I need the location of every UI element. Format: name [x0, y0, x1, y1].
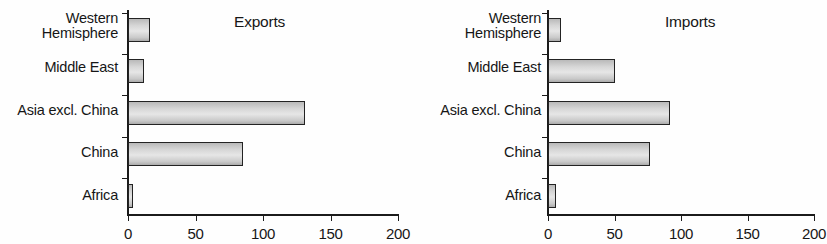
x-axis-tick-label: 50 — [187, 225, 203, 242]
bar — [548, 18, 561, 42]
plot-area-imports: 0 50 100 150 200 — [548, 10, 814, 215]
x-axis-tick — [398, 215, 399, 221]
x-axis-tick-label: 0 — [124, 225, 132, 242]
category-label: Africa — [0, 188, 118, 203]
x-axis-tick-label: 50 — [606, 225, 622, 242]
bar-chart-figure: Western Hemisphere Middle East Asia excl… — [0, 0, 827, 244]
bar — [548, 184, 556, 208]
x-axis-tick-label: 100 — [669, 225, 693, 242]
y-axis-tick — [122, 54, 128, 55]
x-axis-tick-label: 200 — [386, 225, 410, 242]
y-axis-tick — [542, 137, 548, 138]
category-label: Western Hemisphere — [0, 11, 118, 41]
panel-imports: Western Hemisphere Middle East Asia excl… — [413, 0, 827, 244]
category-label: Middle East — [0, 60, 118, 75]
bar — [548, 59, 615, 83]
bar — [548, 142, 650, 166]
y-axis-tick — [122, 95, 128, 96]
category-axis-labels-exports: Western Hemisphere Middle East Asia excl… — [0, 0, 124, 244]
x-axis-tick — [263, 215, 264, 221]
bar — [128, 142, 243, 166]
x-axis-tick — [615, 215, 616, 221]
bar — [128, 101, 305, 125]
y-axis-tick — [542, 95, 548, 96]
y-axis-tick — [542, 13, 548, 14]
y-axis-tick — [122, 137, 128, 138]
x-axis-tick — [548, 215, 549, 221]
bar — [548, 101, 670, 125]
x-axis-tick-label: 100 — [251, 225, 275, 242]
plot-area-exports: 0 50 100 150 200 — [128, 10, 398, 215]
x-axis-tick-label: 0 — [544, 225, 552, 242]
y-axis-tick — [122, 178, 128, 179]
y-axis-tick — [122, 13, 128, 14]
y-axis-tick — [542, 54, 548, 55]
category-label: China — [0, 145, 118, 160]
panel-exports: Western Hemisphere Middle East Asia excl… — [0, 0, 414, 244]
x-axis-tick — [681, 215, 682, 221]
category-axis-labels-imports: Western Hemisphere Middle East Asia excl… — [423, 0, 547, 244]
category-label: Asia excl. China — [381, 103, 541, 118]
x-axis-tick — [331, 215, 332, 221]
x-axis-tick-label: 200 — [802, 225, 826, 242]
y-axis-tick — [542, 178, 548, 179]
bar — [128, 184, 133, 208]
x-axis-tick — [196, 215, 197, 221]
x-axis-tick — [748, 215, 749, 221]
category-label: Middle East — [381, 60, 541, 75]
x-axis-tick — [814, 215, 815, 221]
x-axis-tick-label: 150 — [318, 225, 342, 242]
category-label: Western Hemisphere — [381, 11, 541, 41]
bar — [128, 18, 150, 42]
category-label: Africa — [381, 188, 541, 203]
category-label: Asia excl. China — [0, 103, 118, 118]
category-label: China — [381, 145, 541, 160]
bar — [128, 59, 144, 83]
x-axis-tick — [128, 215, 129, 221]
x-axis-tick-label: 150 — [735, 225, 759, 242]
